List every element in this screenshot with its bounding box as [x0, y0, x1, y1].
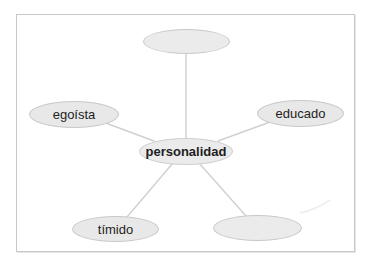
node-egoista[interactable]: egoísta [29, 101, 119, 128]
connector-bottom-right [199, 163, 246, 216]
node-center-label: personalidad [146, 145, 227, 158]
node-center-personalidad[interactable]: personalidad [139, 138, 233, 165]
node-timido[interactable]: tímido [72, 216, 159, 242]
connector-left [103, 122, 154, 141]
node-educado[interactable]: educado [257, 100, 344, 127]
node-egoista-label: egoísta [53, 108, 96, 121]
node-top-blank[interactable] [143, 29, 230, 54]
connector-right [218, 122, 270, 141]
node-timido-label: tímido [98, 223, 133, 236]
node-bottom-right-blank[interactable] [213, 215, 302, 241]
node-educado-label: educado [276, 107, 326, 120]
connector-bottom-left [127, 163, 173, 217]
faint-swoosh-mark [300, 200, 330, 213]
